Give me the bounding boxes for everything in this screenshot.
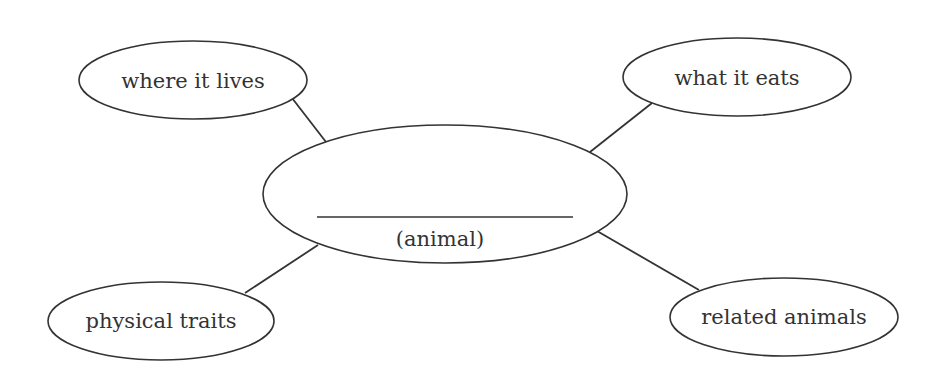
connector-where-it-lives	[292, 98, 326, 142]
concept-web-diagram: (animal) where it lives what it eats phy…	[0, 0, 939, 379]
connector-physical-traits	[245, 245, 318, 293]
connector-what-it-eats	[590, 103, 652, 152]
node-label-what-it-eats: what it eats	[674, 66, 799, 90]
node-physical-traits: physical traits	[48, 282, 274, 360]
node-label-physical-traits: physical traits	[86, 309, 237, 333]
node-where-it-lives: where it lives	[79, 41, 307, 119]
node-label-where-it-lives: where it lives	[121, 69, 264, 93]
node-what-it-eats: what it eats	[623, 38, 851, 116]
center-node-animal: (animal)	[263, 125, 627, 263]
connector-related-animals	[597, 231, 699, 290]
node-related-animals: related animals	[670, 278, 898, 356]
node-label-related-animals: related animals	[701, 305, 866, 329]
center-label: (animal)	[396, 227, 484, 251]
